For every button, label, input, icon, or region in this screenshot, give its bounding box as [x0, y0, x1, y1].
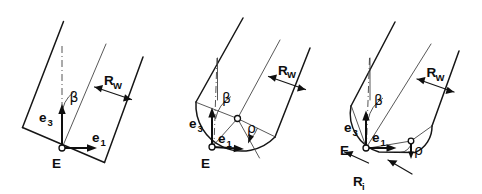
- panel2-round-tip-arc: [196, 102, 275, 151]
- panel2-outer-edge: [196, 18, 243, 102]
- panel1-rw-arrowhead-right: [123, 94, 132, 101]
- panel3-e1-label: e: [372, 130, 380, 145]
- panel1-rw-sublabel: W: [113, 80, 122, 91]
- panel3-ri-arrowhead-right: [388, 160, 398, 167]
- panel3-ri-sublabel: i: [362, 181, 365, 192]
- panel3-rho-node: [408, 138, 414, 144]
- panel2-e3-arrowhead: [208, 108, 215, 118]
- panel3-rho-arrowhead: [408, 152, 414, 160]
- panel2-e3-label: e: [189, 116, 197, 131]
- panel3-rho-label: ρ: [414, 142, 423, 158]
- panel1-e1-arrowhead: [87, 144, 97, 151]
- panel1-beta-label: β: [70, 89, 79, 105]
- panel3-e1-arrowhead: [387, 144, 397, 151]
- panel3-origin-node: [363, 145, 369, 151]
- panel3-e3-sublabel: 3: [353, 127, 358, 138]
- panel2-vertical-reference-line: [214, 58, 217, 145]
- panel2-origin-node: [209, 144, 215, 150]
- panel3-e1-sublabel: 1: [381, 137, 387, 148]
- panel2-origin-label: E: [201, 156, 210, 171]
- panel2-center-node: [235, 116, 241, 122]
- panel3-outer-edge: [351, 22, 395, 106]
- panel-3-inner-radius-variant: β ρ R W e 3 e 1 E: [340, 22, 459, 192]
- panel2-rw-arrowhead-right: [297, 84, 306, 91]
- panel2-rw-sublabel: W: [287, 69, 296, 80]
- panel3-e3-arrowhead: [362, 111, 369, 121]
- panel1-e1-sublabel: 1: [101, 137, 107, 148]
- panel3-e3-label: e: [344, 120, 352, 135]
- panel3-rw-sublabel: W: [436, 72, 445, 83]
- panel3-beta-label: β: [374, 92, 383, 108]
- panel2-rho-label: ρ: [247, 120, 256, 136]
- diagram-svg: β R W e 3 e 1 E: [0, 0, 482, 194]
- panel1-e3-label: e: [39, 110, 47, 125]
- panel2-right-edge: [275, 48, 310, 137]
- panel1-rw-arrowhead-left: [95, 85, 104, 92]
- panel2-radius-line-right: [238, 119, 276, 138]
- panel2-e3-sublabel: 3: [198, 123, 203, 134]
- panel1-origin-node: [59, 145, 65, 151]
- panel1-e3-sublabel: 3: [48, 117, 53, 128]
- panel2-e1-sublabel: 1: [227, 138, 233, 149]
- panel3-origin-label: E: [340, 143, 349, 158]
- panel2-beta-label: β: [222, 90, 231, 106]
- diagram-canvas: β R W e 3 e 1 E: [0, 0, 482, 194]
- panel3-rw-arrowhead-left: [417, 77, 426, 84]
- panel3-rw-arrowhead-right: [446, 87, 455, 94]
- panel1-e3-arrowhead: [58, 104, 65, 114]
- panel2-rw-arrowhead-left: [269, 75, 278, 82]
- panel2-radius-line-left: [197, 103, 238, 119]
- panel1-origin-label: E: [52, 156, 61, 171]
- panel-2-full-round-variant: β ρ R W e 3 e 1 E: [189, 18, 310, 171]
- panel-1-sharp-corner-variant: β R W e 3 e 1 E: [23, 22, 144, 172]
- panel2-e1-label: e: [218, 131, 226, 146]
- panel1-e1-label: e: [92, 130, 100, 145]
